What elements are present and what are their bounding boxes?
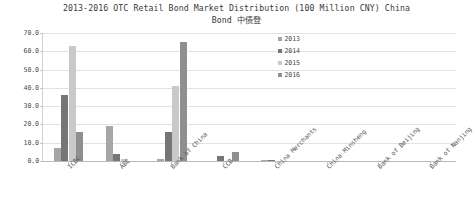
bar [180, 42, 187, 161]
legend-item-2015[interactable]: 2015 [278, 57, 338, 69]
bar [69, 46, 76, 161]
bar [113, 154, 120, 161]
y-tick-label: 40.0 [24, 84, 39, 92]
legend-label: 2013 [285, 35, 300, 43]
y-tick-label: 10.0 [24, 139, 39, 147]
plot-area: 0.010.020.030.040.050.060.070.0 [42, 33, 456, 161]
y-tick-mark [40, 143, 43, 144]
legend-item-2016[interactable]: 2016 [278, 69, 338, 81]
y-tick-label: 50.0 [24, 66, 39, 74]
y-tick-label: 20.0 [24, 120, 39, 128]
bar-group [106, 33, 136, 161]
x-axis: ICBCABCBank of ChinaCCBChina MerchantsCh… [42, 161, 456, 223]
legend-label: 2015 [285, 59, 300, 67]
bar [232, 152, 239, 161]
legend-item-2013[interactable]: 2013 [278, 33, 338, 45]
bar-chart: 2013-2016 OTC Retail Bond Market Distrib… [0, 0, 473, 224]
legend-swatch-icon [278, 73, 282, 77]
chart-title: 2013-2016 OTC Retail Bond Market Distrib… [18, 3, 455, 26]
bar [172, 86, 179, 161]
bar [61, 95, 68, 161]
bars-layer [43, 33, 456, 161]
y-tick-mark [40, 124, 43, 125]
bar-group [364, 33, 394, 161]
y-tick-label: 70.0 [24, 29, 39, 37]
legend-label: 2016 [285, 71, 300, 79]
y-tick-mark [40, 33, 43, 34]
y-tick-mark [40, 70, 43, 71]
bar-group [54, 33, 84, 161]
y-tick-label: 60.0 [24, 47, 39, 55]
legend-item-2014[interactable]: 2014 [278, 45, 338, 57]
y-tick-mark [40, 106, 43, 107]
bar [165, 132, 172, 161]
y-tick-label: 30.0 [24, 102, 39, 110]
y-tick-label: 0.0 [27, 157, 39, 165]
y-tick-mark [40, 88, 43, 89]
y-tick-mark [40, 51, 43, 52]
bar-group [416, 33, 446, 161]
legend-swatch-icon [278, 49, 282, 53]
bar [54, 148, 61, 161]
chart-legend: 2013201420152016 [278, 33, 338, 81]
legend-label: 2014 [285, 47, 300, 55]
legend-swatch-icon [278, 37, 282, 41]
bar-group [157, 33, 187, 161]
bar-group [209, 33, 239, 161]
bar [106, 126, 113, 161]
legend-swatch-icon [278, 61, 282, 65]
